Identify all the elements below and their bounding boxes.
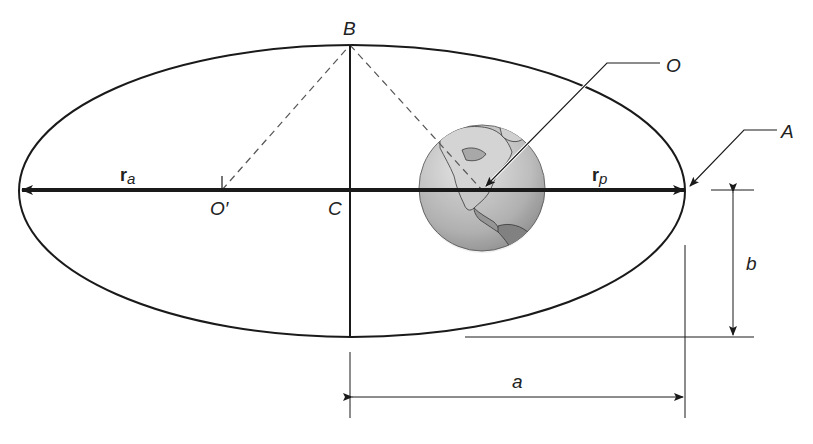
label-c-center: C — [328, 198, 342, 219]
label-rp-main: r — [592, 165, 599, 185]
label-rp-sub: p — [598, 170, 607, 187]
label-b-semiminor: b — [746, 253, 757, 274]
label-a-perigee: A — [780, 121, 794, 142]
label-ra: ra — [120, 165, 135, 187]
label-o-prime: O′ — [210, 198, 230, 219]
label-rp: rp — [592, 165, 607, 187]
label-ra-main: r — [120, 165, 127, 185]
label-a-semimajor: a — [512, 371, 523, 392]
perigee-a-leader — [690, 130, 777, 186]
label-ra-sub: a — [127, 170, 135, 187]
label-b-point: B — [343, 18, 356, 39]
dimension-a — [350, 245, 685, 418]
orbit-diagram: B O A C O′ ra rp b a — [0, 0, 813, 444]
label-o-focus: O — [666, 55, 681, 76]
